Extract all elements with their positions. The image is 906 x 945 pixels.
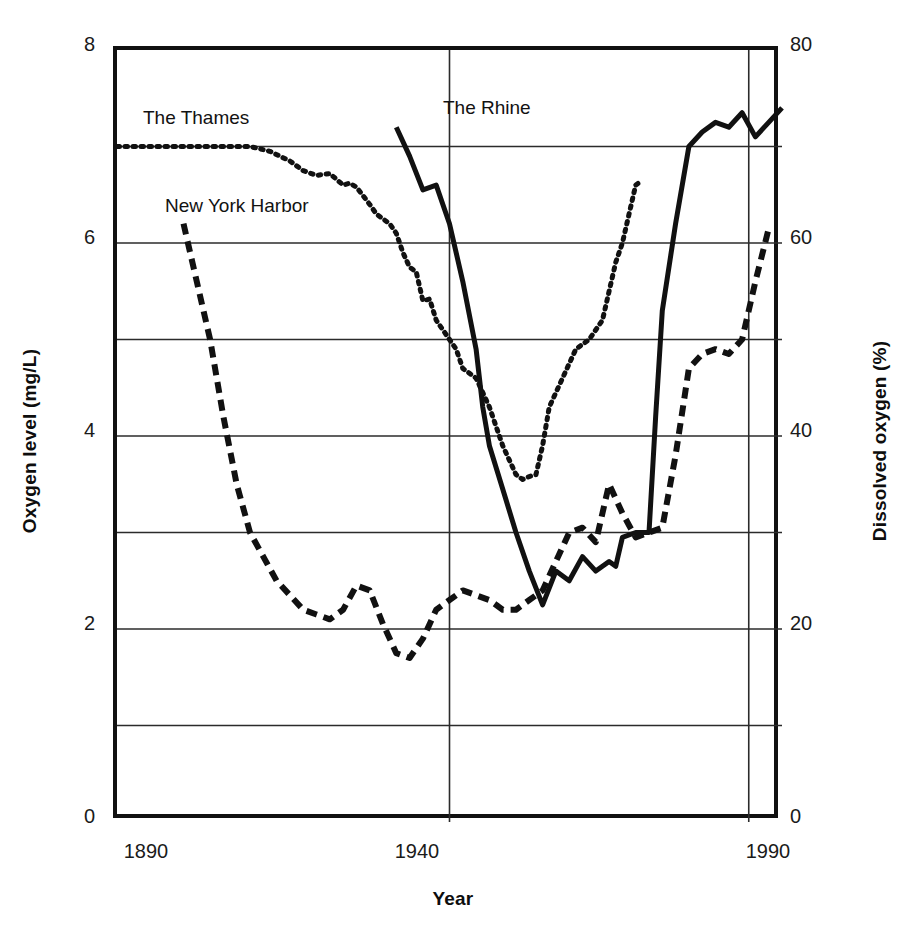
chart-figure: Oxygen level (mg/L) Dissolved oxygen (%)… [0,0,906,945]
y-tick-right-80: 80 [790,33,830,56]
x-tick-1940: 1940 [372,840,462,863]
y-tick-left-4: 4 [55,419,95,442]
y-tick-right-0: 0 [790,805,830,828]
series-label-rhine: The Rhine [443,97,531,119]
x-tick-1890: 1890 [101,840,191,863]
plot-area: The Thames New York Harbor The Rhine [113,46,778,818]
gridlines [117,50,782,822]
y-tick-right-20: 20 [790,612,830,635]
y-tick-left-0: 0 [55,805,95,828]
x-axis-title: Year [0,888,906,910]
y-tick-right-40: 40 [790,419,830,442]
series-label-thames: The Thames [143,107,249,129]
series-label-new-york-harbor: New York Harbor [165,195,309,217]
series-line-the-rhine [396,108,782,605]
y-tick-right-60: 60 [790,226,830,249]
series-line-new-york-harbor [184,224,769,658]
plot-canvas [113,46,786,826]
y-tick-left-8: 8 [55,33,95,56]
y-axis-right-title: Dissolved oxygen (%) [869,261,891,621]
x-tick-1990: 1990 [723,840,813,863]
y-axis-left-title: Oxygen level (mg/L) [19,261,41,621]
y-tick-left-2: 2 [55,612,95,635]
y-tick-left-6: 6 [55,226,95,249]
